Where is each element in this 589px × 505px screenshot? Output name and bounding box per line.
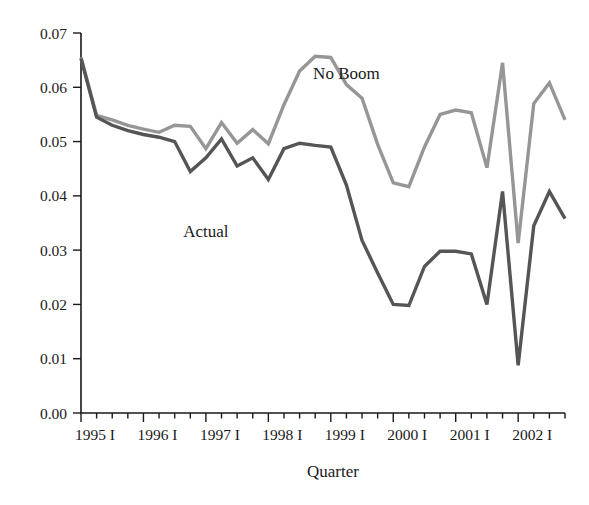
x-tick-label: 2001 I	[450, 426, 490, 443]
x-tick-label: 1995 I	[75, 426, 115, 443]
series-line-actual	[81, 59, 565, 366]
y-tick-label: 0.02	[40, 296, 67, 313]
x-tick-label: 1997 I	[200, 426, 240, 443]
series-line-no-boom	[81, 56, 565, 243]
y-tick-label: 0.07	[40, 25, 67, 42]
x-tick-label: 1996 I	[137, 426, 177, 443]
y-tick-label: 0.05	[40, 133, 67, 150]
chart-figure: 0.000.010.020.030.040.050.060.07 1995 I1…	[0, 0, 589, 505]
y-tick-label: 0.04	[40, 187, 67, 204]
x-tick-label: 2000 I	[387, 426, 427, 443]
x-axis-title: Quarter	[307, 462, 359, 481]
series-label-no-boom: No Boom	[313, 64, 380, 83]
y-tick-label: 0.01	[40, 350, 67, 367]
series-label-actual: Actual	[183, 222, 229, 241]
x-tick-label: 1999 I	[325, 426, 365, 443]
axis-lines	[81, 33, 565, 413]
line-chart: 0.000.010.020.030.040.050.060.07 1995 I1…	[0, 0, 589, 505]
x-axis-ticks: 1995 I1996 I1997 I1998 I1999 I2000 I2001…	[75, 413, 565, 443]
data-series-group	[81, 56, 565, 365]
x-tick-label: 1998 I	[262, 426, 302, 443]
y-tick-label: 0.03	[40, 242, 67, 259]
y-tick-label: 0.06	[40, 79, 67, 96]
y-tick-label: 0.00	[40, 405, 67, 422]
x-tick-label: 2002 I	[512, 426, 552, 443]
y-axis-ticks: 0.000.010.020.030.040.050.060.07	[40, 25, 81, 422]
